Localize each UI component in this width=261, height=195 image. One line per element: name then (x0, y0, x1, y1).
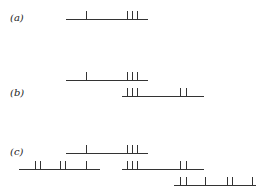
segment-b-1 (122, 88, 204, 97)
segment-c-1 (19, 161, 100, 170)
segment-b-0 (66, 72, 148, 81)
segment-c-3 (174, 177, 256, 186)
segment-diagram (0, 0, 261, 195)
segment-c-0 (66, 145, 148, 154)
segment-a-0 (66, 11, 148, 20)
segment-c-2 (122, 161, 204, 170)
